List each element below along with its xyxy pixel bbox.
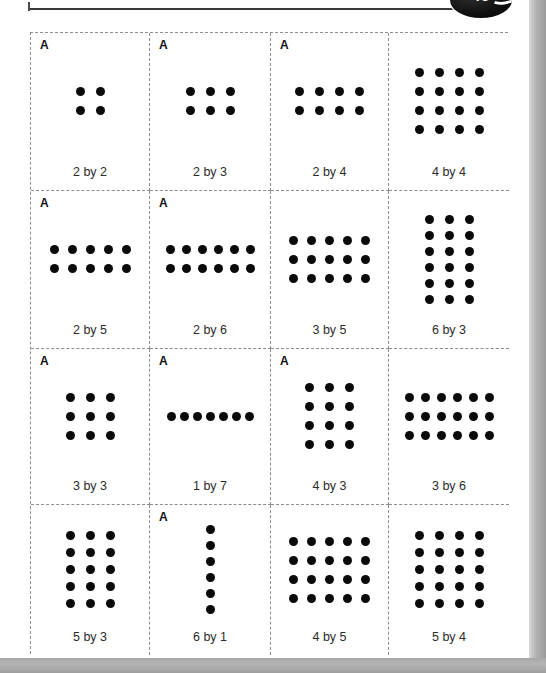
- array-dot: [76, 106, 85, 115]
- array-dot: [186, 87, 195, 96]
- array-dot: [437, 393, 446, 402]
- array-dot: [435, 565, 444, 574]
- array-dot: [106, 565, 115, 574]
- array-dot: [66, 531, 75, 540]
- array-dot: [289, 537, 298, 546]
- array-dot: [421, 393, 430, 402]
- dot-array: [31, 349, 149, 479]
- array-dot: [96, 87, 105, 96]
- array-dot: [475, 87, 484, 96]
- array-dot: [453, 393, 462, 402]
- array-dot: [475, 125, 484, 134]
- array-dot: [415, 565, 424, 574]
- array-dot: [305, 402, 314, 411]
- array-dot: [289, 255, 298, 264]
- dot-grid: [76, 87, 105, 115]
- array-dot: [435, 582, 444, 591]
- array-dot: [106, 582, 115, 591]
- array-dot: [475, 531, 484, 540]
- array-dot: [96, 106, 105, 115]
- array-dimension-label: 6 by 3: [389, 323, 509, 348]
- array-cell: 3 by 5: [271, 191, 389, 349]
- array-dot: [425, 263, 434, 272]
- cell-marker-label: A: [280, 355, 289, 368]
- array-dimension-label: 2 by 4: [271, 165, 388, 190]
- dot-array: [31, 191, 149, 323]
- array-dot: [361, 575, 370, 584]
- array-dot: [325, 594, 334, 603]
- array-dot: [343, 236, 352, 245]
- array-dot: [106, 412, 115, 421]
- array-dot: [335, 106, 344, 115]
- array-dot: [245, 412, 254, 421]
- array-dot: [307, 594, 316, 603]
- array-dot: [361, 274, 370, 283]
- array-dot: [315, 106, 324, 115]
- array-dimension-label: 2 by 5: [31, 323, 149, 348]
- array-dot: [435, 87, 444, 96]
- array-dot: [415, 68, 424, 77]
- array-dot: [86, 431, 95, 440]
- array-dot: [435, 125, 444, 134]
- array-dot: [425, 215, 434, 224]
- array-dot: [106, 599, 115, 608]
- array-dot: [325, 575, 334, 584]
- cell-marker-label: A: [159, 197, 168, 210]
- array-dot: [289, 575, 298, 584]
- dot-array: [150, 505, 270, 630]
- array-dot: [455, 531, 464, 540]
- dot-grid: [405, 393, 494, 440]
- array-dot: [415, 87, 424, 96]
- array-dot: [343, 594, 352, 603]
- array-dot: [415, 531, 424, 540]
- dot-grid: [289, 236, 370, 283]
- dot-array: [271, 349, 388, 479]
- cell-marker-label: A: [159, 355, 168, 368]
- array-dot: [469, 393, 478, 402]
- array-dot: [453, 412, 462, 421]
- dot-array: [389, 349, 509, 479]
- array-dimension-label: 2 by 2: [31, 165, 149, 190]
- array-dot: [193, 412, 202, 421]
- array-dot: [343, 255, 352, 264]
- array-dot: [166, 264, 175, 273]
- array-dot: [455, 565, 464, 574]
- array-dot: [206, 87, 215, 96]
- array-dot: [345, 440, 354, 449]
- array-dot: [289, 594, 298, 603]
- array-dot: [445, 247, 454, 256]
- array-dot: [445, 295, 454, 304]
- array-dot: [343, 537, 352, 546]
- array-dot: [421, 412, 430, 421]
- array-dot: [66, 548, 75, 557]
- dot-array: [31, 505, 149, 630]
- array-dot: [182, 245, 191, 254]
- array-dot: [361, 594, 370, 603]
- array-cell: A3 by 3: [31, 349, 150, 505]
- array-dot: [343, 274, 352, 283]
- array-dot: [86, 565, 95, 574]
- array-cell: A2 by 3: [150, 33, 271, 191]
- dot-array: [150, 349, 270, 479]
- array-dot: [186, 106, 195, 115]
- right-chrome-band: [529, 0, 546, 658]
- array-dot: [214, 264, 223, 273]
- array-dot: [86, 264, 95, 273]
- array-dot: [455, 106, 464, 115]
- array-dot: [453, 431, 462, 440]
- array-dot: [361, 556, 370, 565]
- array-dimension-label: 4 by 4: [389, 165, 509, 190]
- array-dot: [455, 87, 464, 96]
- array-dot: [345, 421, 354, 430]
- array-dot: [289, 274, 298, 283]
- array-dot: [295, 87, 304, 96]
- array-dot: [437, 431, 446, 440]
- array-dot: [206, 573, 215, 582]
- array-dot: [415, 582, 424, 591]
- array-dot: [455, 68, 464, 77]
- dot-array: [150, 191, 270, 323]
- array-cell: 6 by 3: [389, 191, 509, 349]
- array-dot: [325, 402, 334, 411]
- cell-marker-label: A: [40, 355, 49, 368]
- array-dot: [307, 236, 316, 245]
